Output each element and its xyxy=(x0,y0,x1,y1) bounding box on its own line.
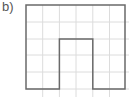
grid-lines xyxy=(26,5,129,97)
grid-diagram xyxy=(0,0,129,97)
